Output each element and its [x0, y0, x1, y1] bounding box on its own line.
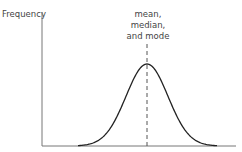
annotation-line-2: median, [131, 20, 166, 30]
annotation-line-1: mean, [135, 9, 162, 19]
y-axis-label: Frequency [2, 9, 46, 19]
normal-distribution-chart: Frequency mean, median, and mode [0, 0, 242, 152]
bell-curve [78, 64, 217, 146]
annotation-line-3: and mode [127, 31, 170, 41]
